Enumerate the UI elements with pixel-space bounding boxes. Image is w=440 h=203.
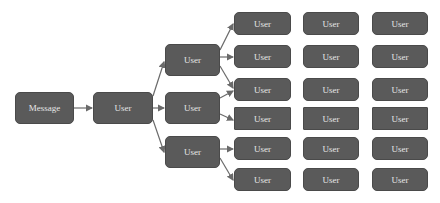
user-node-level2-mid: User	[165, 92, 220, 124]
grid-node: User	[303, 78, 359, 101]
grid-node: User	[234, 45, 291, 68]
grid-node: User	[303, 168, 359, 191]
grid-node: User	[234, 12, 291, 35]
grid-node: User	[372, 137, 428, 160]
grid-node: User	[372, 45, 428, 68]
grid-node: User	[303, 137, 359, 160]
edge-l1-to-l2-bot	[153, 120, 164, 152]
grid-node: User	[234, 107, 291, 130]
message-node: Message	[15, 92, 74, 124]
grid-node: User	[372, 107, 428, 130]
user-node-level2-top: User	[165, 44, 220, 76]
user-node-level1: User	[93, 92, 153, 124]
grid-node: User	[303, 45, 359, 68]
edge-l1-to-l2-top	[153, 62, 164, 96]
grid-node: User	[234, 137, 291, 160]
grid-node: User	[234, 78, 291, 101]
grid-node: User	[234, 168, 291, 191]
grid-node: User	[372, 78, 428, 101]
user-node-level2-bot: User	[165, 136, 220, 168]
grid-node: User	[303, 12, 359, 35]
grid-node: User	[372, 12, 428, 35]
grid-node: User	[303, 107, 359, 130]
grid-node: User	[372, 168, 428, 191]
